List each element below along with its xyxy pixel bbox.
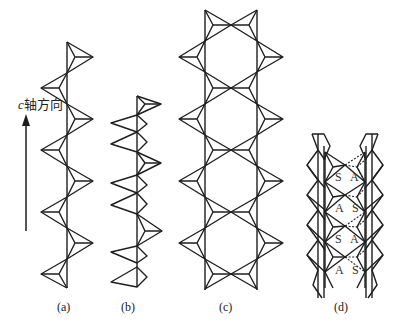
site-label: A: [350, 170, 362, 184]
site-label: S: [352, 201, 362, 215]
panel-label-b: (b): [121, 300, 135, 315]
chain-a: [41, 42, 93, 288]
center-pair-2: [205, 72, 257, 104]
site-row-1: S A: [335, 170, 362, 185]
site-row-4: A S: [335, 263, 362, 278]
axis-label-text: 轴方向: [24, 97, 63, 112]
site-row-3: S A: [335, 232, 362, 247]
chain-b: [111, 96, 162, 287]
panel-label-a: (a): [57, 300, 70, 315]
site-label: S: [335, 170, 345, 184]
panel-label-c: (c): [219, 300, 232, 315]
c-axis-arrow: [22, 114, 30, 231]
center-pair-3: [205, 135, 257, 166]
center-pair-5: [205, 259, 257, 289]
site-label: S: [352, 263, 362, 277]
site-label: A: [335, 263, 346, 277]
double-chain-c: [179, 10, 283, 290]
center-pair-4: [205, 197, 257, 228]
site-label: A: [335, 201, 346, 215]
site-label: A: [350, 232, 362, 246]
site-label: S: [335, 232, 345, 246]
center-pair-1: [205, 10, 257, 41]
c-axis-label: c轴方向: [18, 94, 63, 113]
panel-label-d: (d): [334, 300, 348, 315]
site-row-2: A S: [335, 201, 362, 216]
